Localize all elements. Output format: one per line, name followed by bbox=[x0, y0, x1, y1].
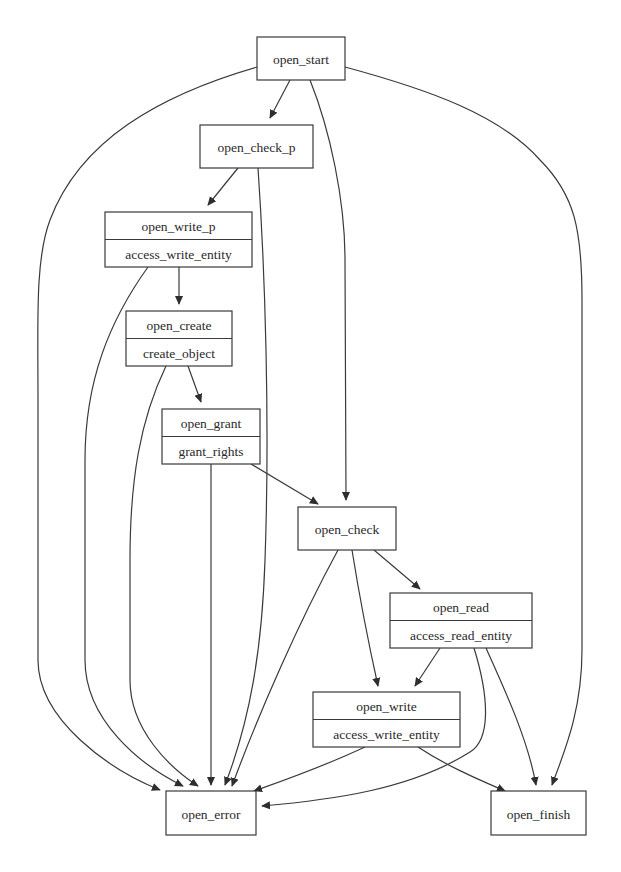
edge-open_check-to-open_read bbox=[374, 550, 420, 589]
edge-open_read-to-open_finish bbox=[486, 648, 536, 785]
node-sublabel: access_write_entity bbox=[125, 247, 232, 262]
node-open_check[interactable]: open_check bbox=[298, 507, 396, 550]
state-diagram: open_startopen_check_popen_write_paccess… bbox=[0, 0, 621, 872]
node-open_write_p[interactable]: open_write_paccess_write_entity bbox=[105, 212, 252, 267]
node-open_finish[interactable]: open_finish bbox=[491, 791, 586, 835]
node-sublabel: create_object bbox=[143, 346, 215, 361]
edge-open_write-to-open_finish bbox=[418, 747, 505, 791]
node-open_start[interactable]: open_start bbox=[257, 37, 345, 80]
node-label: open_check bbox=[315, 522, 380, 537]
node-label: open_check_p bbox=[218, 140, 296, 155]
node-open_write[interactable]: open_writeaccess_write_entity bbox=[313, 692, 460, 747]
node-label: open_start bbox=[273, 52, 329, 67]
node-label: open_write_p bbox=[141, 219, 215, 234]
edge-open_start-to-open_check_p bbox=[270, 80, 290, 118]
node-sublabel: access_read_entity bbox=[410, 628, 512, 643]
node-sublabel: access_write_entity bbox=[333, 727, 440, 742]
edge-open_read-to-open_write bbox=[415, 648, 440, 686]
node-open_grant[interactable]: open_grantgrant_rights bbox=[162, 409, 260, 464]
node-open_error[interactable]: open_error bbox=[166, 791, 256, 835]
node-label: open_write bbox=[356, 699, 417, 714]
node-sublabel: grant_rights bbox=[178, 444, 243, 459]
node-label: open_read bbox=[433, 600, 489, 615]
node-open_check_p[interactable]: open_check_p bbox=[200, 125, 313, 168]
node-label: open_error bbox=[181, 807, 241, 822]
node-label: open_grant bbox=[181, 416, 242, 431]
node-label: open_create bbox=[146, 318, 211, 333]
edge-open_grant-to-open_check bbox=[251, 464, 318, 504]
edge-open_write-to-open_error bbox=[254, 747, 365, 791]
edge-open_check-to-open_error bbox=[232, 550, 338, 786]
edge-open_create-to-open_grant bbox=[188, 366, 201, 402]
node-open_create[interactable]: open_createcreate_object bbox=[126, 311, 232, 366]
edge-open_start-to-open_check bbox=[310, 80, 346, 500]
edge-open_check-to-open_write bbox=[352, 550, 378, 686]
node-open_read[interactable]: open_readaccess_read_entity bbox=[390, 593, 532, 648]
edge-open_check_p-to-open_write_p bbox=[208, 168, 238, 205]
node-label: open_finish bbox=[507, 807, 571, 822]
edge-open_start-to-open_finish bbox=[345, 67, 582, 785]
edges-layer bbox=[38, 67, 582, 806]
